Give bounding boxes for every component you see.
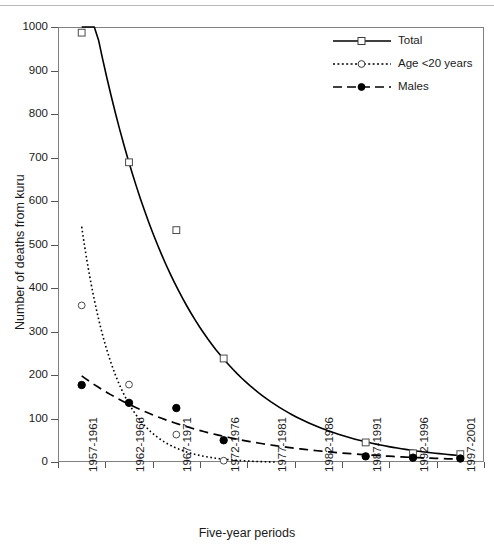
y-tick-mark xyxy=(51,201,58,202)
y-tick-label: 200 xyxy=(0,369,48,381)
x-tick-mark xyxy=(389,462,390,468)
y-tick-mark xyxy=(51,288,58,289)
x-tick-label: 1987-1991 xyxy=(371,417,383,472)
x-tick-label: 1977-1981 xyxy=(276,417,288,472)
y-tick-mark xyxy=(51,71,58,72)
y-tick-mark xyxy=(51,245,58,246)
y-tick-label: 700 xyxy=(0,152,48,164)
y-tick-label: 500 xyxy=(0,239,48,251)
legend-label-males: Males xyxy=(398,80,429,92)
kuru-deaths-chart: Number of deaths from kuru 0100200300400… xyxy=(0,0,494,549)
x-tick-mark xyxy=(484,462,485,468)
x-tick-label: 1957-1961 xyxy=(87,417,99,472)
y-tick-label: 300 xyxy=(0,326,48,338)
legend-label-age-under-20: Age <20 years xyxy=(398,57,472,69)
x-tick-label: 1962-1966 xyxy=(134,417,146,472)
y-tick-mark xyxy=(51,27,58,28)
x-tick-label: 1992-1996 xyxy=(418,417,430,472)
x-tick-label: 1997-2001 xyxy=(465,417,477,472)
x-tick-mark xyxy=(200,462,201,468)
x-axis-title: Five-year periods xyxy=(0,526,494,540)
x-tick-mark xyxy=(295,462,296,468)
x-tick-mark xyxy=(153,462,154,468)
y-tick-mark xyxy=(51,114,58,115)
x-tick-label: 1967-1971 xyxy=(181,417,193,472)
x-tick-mark xyxy=(437,462,438,468)
y-tick-mark xyxy=(51,332,58,333)
y-tick-label: 0 xyxy=(0,456,48,468)
y-tick-label: 100 xyxy=(0,413,48,425)
legend-item-males: Males xyxy=(333,76,483,99)
y-tick-mark xyxy=(51,419,58,420)
y-tick-label: 900 xyxy=(0,65,48,77)
x-tick-label: 1972-1976 xyxy=(229,417,241,472)
y-tick-mark xyxy=(51,462,58,463)
legend-key-age-under-20 xyxy=(333,53,391,76)
legend-key-total xyxy=(333,30,391,53)
legend-item-age-under-20: Age <20 years xyxy=(333,53,483,76)
x-tick-mark xyxy=(58,462,59,468)
y-tick-label: 1000 xyxy=(0,21,48,33)
x-tick-label: 1982-1986 xyxy=(323,417,335,472)
y-tick-label: 800 xyxy=(0,108,48,120)
y-tick-mark xyxy=(51,375,58,376)
legend-item-total: Total xyxy=(333,30,483,53)
legend-label-total: Total xyxy=(398,34,422,46)
x-tick-mark xyxy=(105,462,106,468)
x-tick-mark xyxy=(342,462,343,468)
legend-key-males xyxy=(333,76,391,99)
y-tick-mark xyxy=(51,158,58,159)
y-tick-label: 600 xyxy=(0,195,48,207)
x-tick-mark xyxy=(247,462,248,468)
chart-legend: Total Age <20 years Males xyxy=(333,30,483,99)
y-tick-label: 400 xyxy=(0,282,48,294)
